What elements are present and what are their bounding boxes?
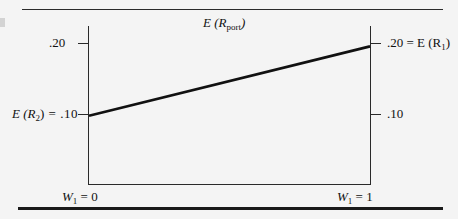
- chart-title: E (Rport): [203, 16, 245, 29]
- y-axis-left-label-bottom: E (R2) = .10: [12, 107, 78, 120]
- y-axis-left-label-top: .20: [49, 36, 65, 49]
- bottom-horizontal-rule: [18, 207, 443, 210]
- figure-container: E (Rport) .20 E (R2) = .10 .20 = E (R1) …: [0, 0, 458, 219]
- x-axis-label-right: W1 = 1: [337, 190, 373, 203]
- data-line-e-rport: [89, 46, 370, 115]
- y-axis-right-label-bottom: .10: [387, 107, 403, 120]
- y-axis-right-label-top: .20 = E (R1): [387, 36, 450, 49]
- x-axis-label-left: W1 = 0: [62, 190, 98, 203]
